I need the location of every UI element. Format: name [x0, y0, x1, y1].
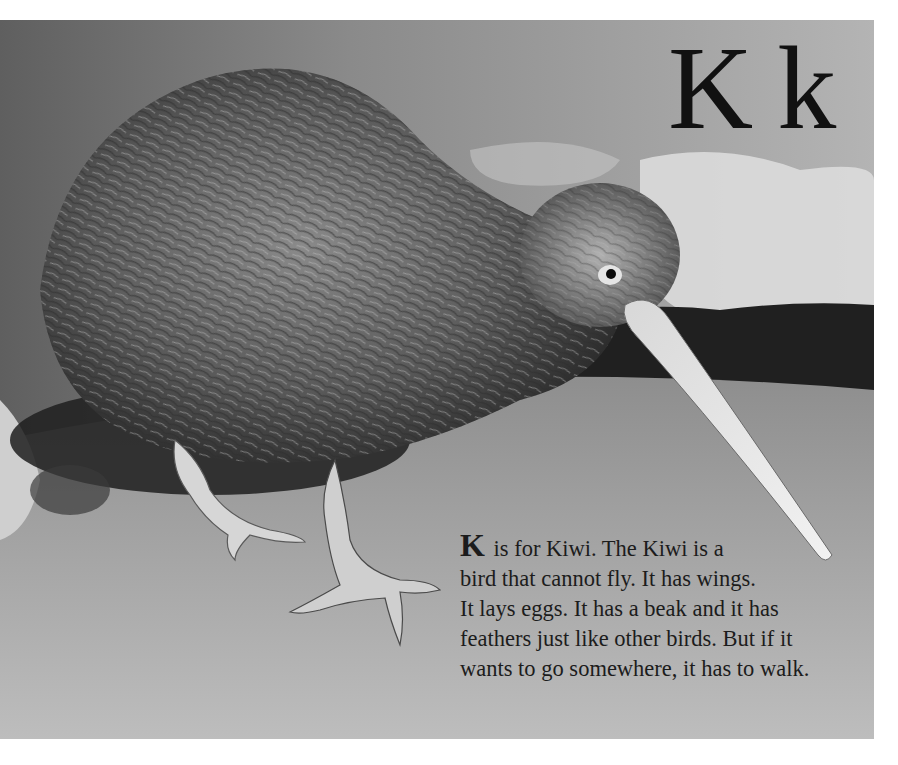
caption-line: wants to go somewhere, it has to walk. — [460, 654, 860, 684]
caption-text: K is for Kiwi. The Kiwi is a bird that c… — [460, 533, 860, 684]
page-title: Kk — [668, 30, 840, 148]
drop-cap: K — [460, 527, 485, 563]
book-page: Kk K is for Kiwi. The Kiwi is a bird tha… — [0, 0, 898, 765]
caption-line: K is for Kiwi. The Kiwi is a — [460, 533, 860, 564]
caption-line: bird that cannot fly. It has wings. — [460, 564, 860, 594]
caption-line: feathers just like other birds. But if i… — [460, 624, 860, 654]
lowercase-letter: k — [777, 23, 840, 154]
uppercase-letter: K — [668, 23, 757, 154]
caption-line-text: is for Kiwi. The Kiwi is a — [488, 536, 724, 561]
caption-line: It lays eggs. It has a beak and it has — [460, 594, 860, 624]
